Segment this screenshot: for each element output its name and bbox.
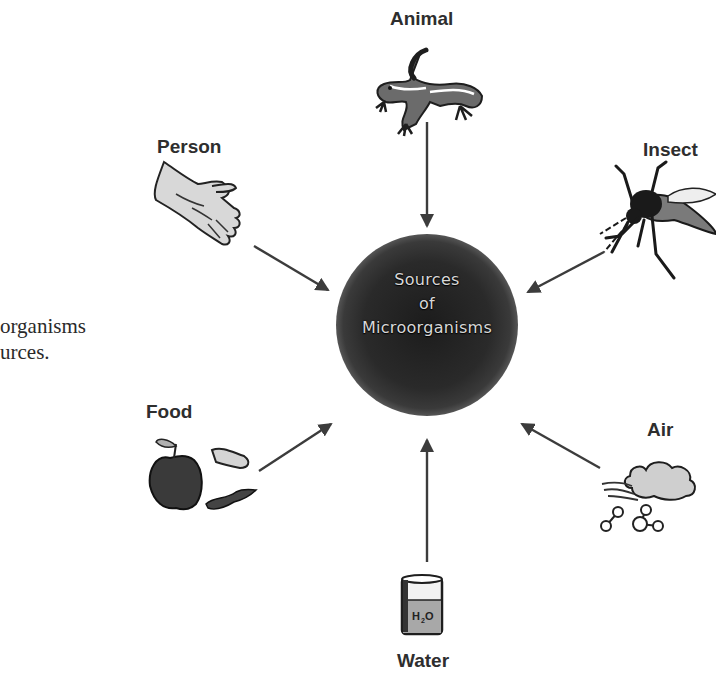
label-food: Food xyxy=(146,401,192,423)
svg-text:O: O xyxy=(425,610,434,622)
label-air: Air xyxy=(647,419,673,441)
label-water: Water xyxy=(397,650,449,672)
beaker-icon: H 2 O xyxy=(402,575,442,634)
arrow-food xyxy=(259,424,331,471)
arrow-person xyxy=(254,246,328,290)
hand-icon xyxy=(155,162,240,245)
center-label-line-2: of xyxy=(337,292,517,316)
mosquito-icon xyxy=(600,162,716,278)
svg-text:H: H xyxy=(412,610,420,622)
center-label-line-3: Microorganisms xyxy=(337,316,517,340)
cloud-icon xyxy=(601,462,695,531)
label-animal: Animal xyxy=(390,8,453,30)
arrow-air xyxy=(522,424,600,468)
arrow-insect xyxy=(528,252,604,292)
label-person: Person xyxy=(157,136,221,158)
lizard-icon xyxy=(376,50,482,136)
center-label: Sources of Microorganisms xyxy=(337,268,517,340)
label-insect: Insect xyxy=(643,139,698,161)
center-label-line-1: Sources xyxy=(337,268,517,292)
apple-icon xyxy=(150,439,256,509)
